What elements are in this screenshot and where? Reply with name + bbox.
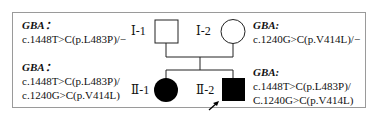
individual-i2-circle bbox=[221, 20, 245, 44]
individual-ii2-square bbox=[222, 78, 245, 101]
individual-ii1-circle bbox=[154, 78, 178, 102]
pedigree-graphic bbox=[0, 0, 377, 121]
individual-i1-square bbox=[155, 20, 178, 43]
proband-arrow-icon bbox=[209, 101, 219, 110]
